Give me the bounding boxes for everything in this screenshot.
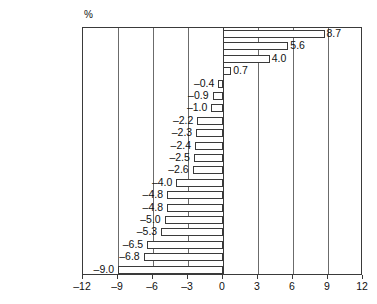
bar-row (83, 140, 361, 152)
bar-row (83, 177, 361, 189)
bar (161, 228, 223, 236)
bar-row (83, 127, 361, 139)
bar-row (83, 78, 361, 90)
bar-row (83, 152, 361, 164)
bar (213, 92, 224, 100)
value-label: –2.3 (172, 126, 192, 138)
bar (218, 80, 223, 88)
x-tick-label: 0 (219, 280, 225, 292)
bar (118, 266, 223, 274)
x-tick (362, 275, 363, 279)
bar (195, 142, 223, 150)
bar-row (83, 115, 361, 127)
x-tick (152, 275, 153, 279)
value-label: –2.6 (168, 163, 188, 175)
bar (167, 204, 223, 212)
value-label: –9.0 (94, 263, 114, 275)
bar (211, 104, 223, 112)
bar (196, 129, 223, 137)
value-label: –0.4 (194, 77, 214, 89)
bar (223, 42, 288, 50)
bar (223, 67, 231, 75)
x-tick (257, 275, 258, 279)
bar-row (83, 90, 361, 102)
bar-chart: % China8.7India5.6Indonesia4.0Australia0… (0, 0, 377, 304)
value-label: –5.3 (137, 225, 157, 237)
value-label: –5.0 (140, 213, 160, 225)
value-label: –6.8 (119, 250, 139, 262)
bar (167, 191, 223, 199)
value-label: 4.0 (272, 52, 287, 64)
value-label: –4.8 (143, 201, 163, 213)
value-label: –4.0 (152, 176, 172, 188)
bar (144, 253, 223, 261)
bar (147, 241, 223, 249)
x-tick-label: 3 (254, 280, 260, 292)
bar (165, 216, 223, 224)
axis-unit-label: % (84, 9, 93, 20)
bar-row (83, 164, 361, 176)
value-label: –6.5 (123, 238, 143, 250)
bar (194, 154, 223, 162)
x-tick (82, 275, 83, 279)
x-tick-label: 6 (289, 280, 295, 292)
bar (176, 179, 223, 187)
bar-row (83, 189, 361, 201)
value-label: –4.8 (143, 188, 163, 200)
bar-row (83, 102, 361, 114)
bar-row (83, 214, 361, 226)
value-label: –2.2 (173, 114, 193, 126)
x-tick-label: –9 (111, 280, 123, 292)
x-tick (292, 275, 293, 279)
bar (193, 166, 223, 174)
bar (197, 117, 223, 125)
x-tick-label: –12 (73, 280, 91, 292)
bar-row (83, 28, 361, 40)
x-tick (327, 275, 328, 279)
value-label: 5.6 (290, 39, 305, 51)
bar (223, 30, 325, 38)
x-tick-label: 12 (356, 280, 368, 292)
x-tick (222, 275, 223, 279)
bar (223, 55, 270, 63)
x-tick-label: –3 (181, 280, 193, 292)
value-label: 8.7 (327, 27, 342, 39)
bar-row (83, 65, 361, 77)
value-label: –0.9 (188, 89, 208, 101)
value-label: –2.4 (171, 139, 191, 151)
x-tick (117, 275, 118, 279)
x-tick (187, 275, 188, 279)
bar-row (83, 202, 361, 214)
x-tick-label: –6 (146, 280, 158, 292)
value-label: 0.7 (233, 64, 248, 76)
bar-row (83, 40, 361, 52)
x-tick-label: 9 (324, 280, 330, 292)
value-label: –1.0 (187, 101, 207, 113)
value-label: –2.5 (169, 151, 189, 163)
bar-row (83, 53, 361, 65)
